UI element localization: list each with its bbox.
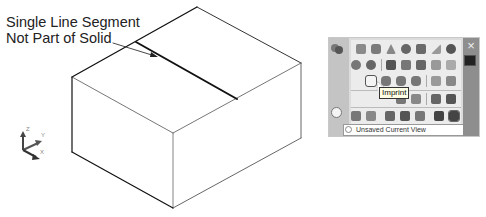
interfere-icon[interactable] — [446, 76, 456, 86]
ucs-y-label: Y — [41, 132, 45, 138]
fly-icon[interactable] — [415, 111, 425, 121]
slice-icon[interactable] — [431, 76, 441, 86]
ucs-icon: Z Y X — [20, 126, 45, 160]
cylinder-icon[interactable] — [371, 44, 381, 54]
palette-tab-strip[interactable] — [329, 38, 349, 136]
view-select-dropdown[interactable]: Unsaved Current View ▾ — [343, 124, 477, 136]
box-icon[interactable] — [356, 44, 366, 54]
pan-icon[interactable] — [385, 111, 395, 121]
camera-icon[interactable] — [434, 111, 444, 121]
orbit-icon[interactable] — [351, 111, 361, 121]
check-icon[interactable] — [446, 94, 456, 104]
ucs-x-label: X — [40, 149, 44, 155]
walk-icon[interactable] — [400, 111, 410, 121]
tool-row-primitives — [351, 41, 461, 57]
presspull-icon[interactable] — [386, 60, 396, 70]
callout-line-2: Not Part of Solid — [6, 30, 140, 46]
3d-navigate-group-icon — [331, 107, 342, 118]
extract-edges-icon[interactable] — [411, 94, 421, 104]
3d-make-group-icon — [330, 41, 344, 54]
tool-row-modeling — [351, 57, 461, 73]
wedge-icon[interactable] — [431, 44, 441, 54]
pyramid-icon[interactable] — [416, 44, 426, 54]
view-icon[interactable] — [449, 111, 459, 121]
palette-title-bar[interactable]: × — [463, 38, 479, 136]
zoom-icon[interactable] — [366, 111, 376, 121]
loft-icon[interactable] — [431, 60, 441, 70]
box-edge-top-front-left — [72, 77, 173, 133]
ucs-z-label: Z — [26, 126, 30, 132]
tool-palette-panel[interactable]: Imprint Unsaved Current View ▾ × — [328, 37, 480, 137]
single-line-segment[interactable] — [136, 42, 237, 99]
properties-icon[interactable] — [464, 55, 476, 66]
tool-row-navigation — [351, 108, 461, 124]
callout-label: Single Line Segment Not Part of Solid — [6, 14, 140, 46]
torus-icon[interactable] — [446, 44, 456, 54]
box-edge-bottom-right — [173, 138, 301, 208]
box-edge-top-back-right — [197, 7, 301, 63]
polysolid-icon[interactable] — [351, 60, 361, 70]
sweep-icon[interactable] — [401, 60, 411, 70]
separator — [426, 75, 427, 87]
revolve-icon[interactable] — [416, 60, 426, 70]
sphere-icon[interactable] — [401, 44, 411, 54]
helix-icon[interactable] — [446, 60, 456, 70]
imprint-tooltip: Imprint — [379, 87, 409, 99]
callout-line-1: Single Line Segment — [6, 14, 140, 30]
separator — [426, 93, 427, 105]
cone-icon[interactable] — [386, 44, 396, 54]
extrude-icon[interactable] — [366, 60, 376, 70]
box-edge-bottom-left — [72, 152, 173, 208]
intersect-icon[interactable] — [411, 76, 421, 86]
close-icon[interactable]: × — [465, 40, 477, 52]
separator — [381, 59, 382, 71]
view-select-value: Unsaved Current View — [356, 126, 426, 133]
view-icon — [345, 126, 352, 133]
subtract-icon[interactable] — [396, 76, 406, 86]
shell-icon[interactable] — [431, 94, 441, 104]
